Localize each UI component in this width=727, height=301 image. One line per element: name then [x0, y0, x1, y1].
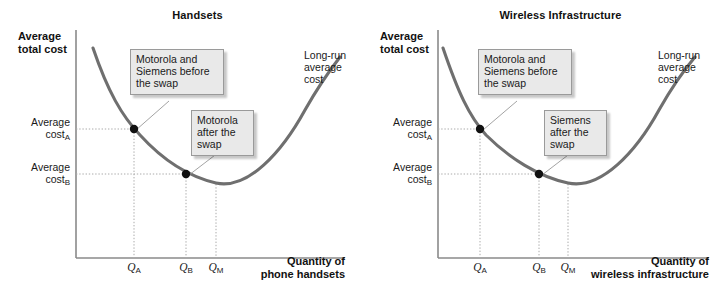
y-axis-title: Average total cost	[380, 30, 429, 55]
callout-before-swap: Motorola and Siemens before the swap	[130, 49, 224, 95]
x-tick-qm-symbol: Q	[209, 261, 217, 273]
y-tick-label-cost-b: Average costB	[8, 161, 70, 189]
x-tick-qm-symbol: Q	[561, 261, 569, 273]
x-axis-title: Quantity of wireless infrastructure	[559, 255, 709, 280]
x-tick-qm-sub: M	[569, 266, 576, 275]
x-tick-label-qb: QB	[173, 261, 199, 275]
y-tick-cost-a-sub: A	[427, 133, 432, 142]
x-tick-label-qa: QA	[467, 261, 493, 275]
y-tick-cost-a-sub: A	[65, 133, 70, 142]
panel-wireless: Wireless Infrastructure Average t	[364, 0, 727, 301]
x-tick-label-qb: QB	[526, 261, 552, 275]
y-tick-cost-b-sub: B	[427, 178, 432, 187]
y-tick-label-cost-a: Average costA	[8, 116, 70, 144]
curve-caption-long-run-average-cost: Long-run average cost	[658, 49, 700, 85]
y-axis-title: Average total cost	[18, 30, 67, 55]
curve-caption-long-run-average-cost: Long-run average cost	[304, 49, 346, 85]
callout-before-swap: Motorola and Siemens before the swap	[478, 49, 572, 95]
x-tick-qm-sub: M	[217, 266, 224, 275]
leader-line-before-swap	[483, 101, 517, 130]
x-tick-qb-sub: B	[187, 266, 192, 275]
x-tick-qa-sub: A	[481, 266, 486, 275]
x-tick-label-qm: QM	[555, 261, 581, 275]
data-point-b	[182, 170, 190, 178]
x-tick-qa-sub: A	[135, 266, 140, 275]
x-tick-qb-sub: B	[540, 266, 545, 275]
data-point-a	[476, 125, 484, 133]
y-tick-label-cost-b: Average costB	[370, 161, 432, 189]
x-tick-label-qa: QA	[121, 261, 147, 275]
callout-after-swap: Siemens after the swap	[544, 110, 607, 156]
figure-long-run-average-cost: Handsets Average total cost	[0, 0, 727, 301]
x-tick-label-qm: QM	[203, 261, 229, 275]
callout-after-swap: Motorola after the swap	[191, 110, 254, 156]
panel-handsets: Handsets Average total cost	[0, 0, 363, 301]
data-point-a	[130, 125, 138, 133]
leader-line-before-swap	[136, 101, 169, 130]
y-tick-cost-b-sub: B	[65, 178, 70, 187]
data-point-b	[535, 170, 543, 178]
x-axis-title: Quantity of phone handsets	[215, 255, 345, 280]
y-tick-label-cost-a: Average costA	[370, 116, 432, 144]
